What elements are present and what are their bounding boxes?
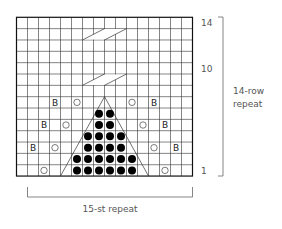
bobble-dot	[95, 166, 103, 174]
cable-cross-row-13	[83, 29, 127, 40]
bobble-dot	[117, 155, 125, 163]
b-symbol: B	[30, 143, 36, 153]
b-symbol: B	[151, 98, 157, 108]
chart-grid	[17, 17, 193, 176]
b-symbol: B	[173, 143, 179, 153]
bobble-dot	[73, 166, 81, 174]
bobble-dot	[106, 144, 114, 152]
bobble-dot	[128, 155, 136, 163]
bobble-dot	[84, 155, 92, 163]
row-number-14: 14	[201, 18, 213, 28]
row-repeat-label-line2: repeat	[233, 99, 263, 109]
b-symbol: B	[52, 98, 58, 108]
bobble-dot	[95, 121, 103, 129]
yarn-over-circle	[63, 122, 69, 128]
bobble-dot	[106, 155, 114, 163]
bobble-dot	[117, 132, 125, 140]
yarn-over-circle	[74, 99, 80, 105]
bobble-dot	[106, 110, 114, 118]
yarn-over-circle	[162, 167, 168, 173]
b-symbol: B	[41, 120, 47, 130]
yarn-over-circle	[52, 145, 58, 151]
bobble-dot	[117, 144, 125, 152]
stitch-repeat-label: 15-st repeat	[82, 204, 138, 214]
bobble-dot	[95, 144, 103, 152]
row-number-1: 1	[201, 166, 207, 176]
bobble-dot	[84, 166, 92, 174]
yarn-over-circle	[140, 122, 146, 128]
row-repeat-bracket: 14-row repeat	[218, 17, 264, 176]
bobble-dot	[106, 121, 114, 129]
bobble-dot	[106, 132, 114, 140]
row-repeat-label-line1: 14-row	[233, 86, 264, 96]
b-symbol: B	[162, 120, 168, 130]
yarn-over-circle	[41, 167, 47, 173]
bobble-dot	[84, 132, 92, 140]
yarn-over-circle	[129, 99, 135, 105]
row-number-10: 10	[201, 64, 213, 74]
bobble-dot	[84, 144, 92, 152]
bobble-dot	[95, 155, 103, 163]
bobble-dot	[95, 132, 103, 140]
yarn-over-circle	[151, 145, 157, 151]
bobble-dot	[106, 166, 114, 174]
row-numbers: 14101	[201, 18, 213, 175]
bobble-dot	[95, 110, 103, 118]
bobble-dot	[73, 155, 81, 163]
knitting-chart: BBBBBB 14101 14-row repeat 15-st repeat	[0, 0, 282, 229]
bobble-dot	[128, 166, 136, 174]
cable-cross-row-9	[83, 74, 127, 85]
stitch-repeat-bracket: 15-st repeat	[28, 187, 193, 214]
bobble-dot	[117, 166, 125, 174]
